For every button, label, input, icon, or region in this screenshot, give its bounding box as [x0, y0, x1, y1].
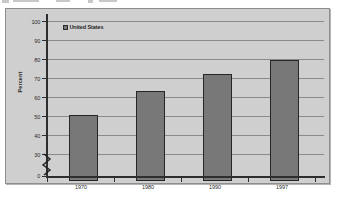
gridline-100: [47, 21, 324, 22]
x-tick-mark: [248, 178, 249, 182]
plot-area: [47, 14, 324, 181]
legend-entry-label: United States: [70, 24, 104, 30]
y-axis-title: Percent: [17, 62, 23, 102]
x-tick-mark: [181, 178, 182, 182]
scan-artifact: [56, 0, 70, 2]
bar-1997[interactable]: [270, 60, 299, 181]
y-tick-label-40: 40: [18, 133, 40, 139]
x-tick-mark: [114, 178, 115, 182]
x-category-label-1970: 1970: [57, 184, 105, 190]
screenshot-page: 100 90 80 70 60 50 40 30 0 Percent: [0, 0, 339, 200]
bar-1980[interactable]: [136, 91, 165, 181]
scan-artifact: [88, 0, 93, 3]
axis-break-zigzag-icon: [39, 152, 55, 176]
y-tick-label-30: 30: [18, 152, 40, 158]
scan-artifact: [2, 0, 9, 3]
y-tick-label-90: 90: [18, 38, 40, 44]
y-tick-label-0: 0: [18, 173, 40, 179]
x-category-label-1997: 1997: [258, 184, 306, 190]
scan-artifact: [99, 0, 117, 2]
bar-chart-figure: 100 90 80 70 60 50 40 30 0 Percent: [5, 8, 330, 184]
gridline-90: [47, 40, 324, 41]
category-axis-line: [46, 176, 325, 178]
y-tick-label-50: 50: [18, 114, 40, 120]
bar-1990[interactable]: [203, 74, 232, 182]
x-category-label-1980: 1980: [124, 184, 172, 190]
scan-artifact: [13, 0, 39, 2]
x-tick-mark: [47, 178, 48, 182]
x-tick-mark: [315, 178, 316, 182]
filled-square-icon: [63, 25, 68, 30]
chart-legend: United States: [63, 24, 103, 30]
y-tick-label-100: 100: [18, 19, 40, 25]
x-category-label-1990: 1990: [191, 184, 239, 190]
bar-1970[interactable]: [69, 115, 98, 181]
